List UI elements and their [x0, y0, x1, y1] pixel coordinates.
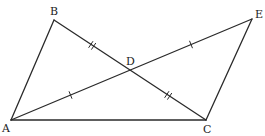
segment-AE	[11, 19, 252, 120]
label-point-E: E	[255, 8, 263, 21]
label-point-A: A	[1, 122, 11, 135]
label-point-D: D	[126, 55, 135, 68]
segment-CE	[206, 19, 252, 120]
label-point-B: B	[50, 5, 58, 18]
label-point-C: C	[203, 123, 211, 136]
geometry-diagram: A B C D E	[0, 0, 265, 136]
